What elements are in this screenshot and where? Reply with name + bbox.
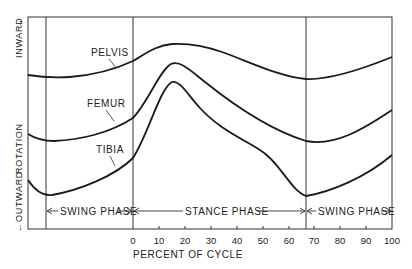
x-axis-tick-labels: 0 10 20 30 40 50 60 70 80 90 100 bbox=[130, 235, 400, 246]
tibia-leader bbox=[110, 156, 115, 166]
svg-text:90: 90 bbox=[361, 235, 372, 246]
tibia-label: TIBIA bbox=[96, 144, 124, 155]
svg-text:STANCE PHASE: STANCE PHASE bbox=[185, 206, 269, 217]
svg-text:40: 40 bbox=[232, 235, 243, 246]
svg-text:10: 10 bbox=[154, 235, 165, 246]
inward-arrow-icon: → bbox=[14, 18, 24, 28]
svg-text:80: 80 bbox=[335, 235, 346, 246]
y-axis-labels: INWARD → ROTATION ← OUTWARD bbox=[14, 18, 24, 232]
x-axis-label: PERCENT OF CYCLE bbox=[133, 249, 243, 260]
femur-label: FEMUR bbox=[87, 98, 126, 109]
femur-leader bbox=[106, 110, 114, 121]
svg-text:20: 20 bbox=[180, 235, 191, 246]
pelvis-leader bbox=[109, 59, 116, 68]
outward-label: OUTWARD bbox=[14, 171, 24, 222]
svg-text:30: 30 bbox=[206, 235, 217, 246]
svg-text:100: 100 bbox=[384, 235, 400, 246]
phase-stance: STANCE PHASE bbox=[134, 206, 305, 217]
pelvis-label: PELVIS bbox=[91, 47, 129, 58]
svg-text:0: 0 bbox=[130, 235, 135, 246]
phase-swing-1: SWING PHASE bbox=[47, 206, 137, 217]
gait-rotation-chart: PELVIS FEMUR TIBIA SWING PHASE STANCE PH… bbox=[0, 0, 412, 269]
pelvis-curve bbox=[28, 44, 392, 79]
svg-text:60: 60 bbox=[284, 235, 295, 246]
outward-arrow-icon: ← bbox=[14, 222, 24, 232]
phase-swing-2: SWING PHASE bbox=[307, 206, 395, 217]
rotation-label: ROTATION bbox=[14, 123, 24, 174]
svg-text:50: 50 bbox=[258, 235, 269, 246]
svg-text:70: 70 bbox=[309, 235, 320, 246]
